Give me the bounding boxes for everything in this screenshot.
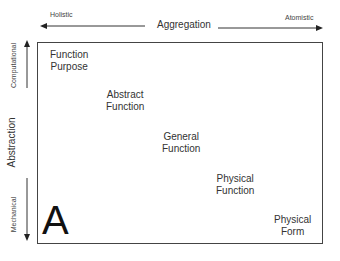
aggregation-title: Aggregation	[157, 19, 211, 30]
node-physical-form: Physical Form	[274, 214, 311, 238]
mechanical-label: Mechanical	[10, 192, 17, 238]
panel-label: A	[42, 200, 69, 240]
node-abstract-function: Abstract Function	[106, 89, 144, 113]
node-function-purpose: Function Purpose	[50, 49, 88, 73]
node-general-function: General Function	[162, 131, 200, 155]
holistic-label: Holistic	[50, 11, 73, 18]
node-physical-function: Physical Function	[216, 173, 254, 197]
atomistic-label: Atomistic	[285, 14, 313, 21]
abstraction-title: Abstraction	[6, 113, 17, 173]
computational-label: Computational	[10, 41, 17, 91]
